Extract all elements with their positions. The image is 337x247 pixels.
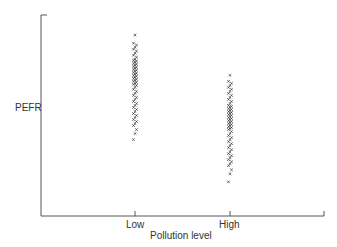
data-point-x-marker xyxy=(230,168,233,171)
x-axis xyxy=(41,211,324,216)
data-point-x-marker xyxy=(134,34,137,37)
data-point-x-marker xyxy=(227,98,230,101)
data-point-x-marker xyxy=(132,118,135,121)
data-point-x-marker xyxy=(135,128,138,131)
series-high-points xyxy=(227,74,233,183)
x-category-high: High xyxy=(219,219,240,230)
data-point-x-marker xyxy=(230,88,233,91)
y-axis-label: PEFR xyxy=(15,102,42,113)
data-point-x-marker xyxy=(132,124,135,127)
x-category-low: Low xyxy=(126,219,144,230)
data-point-x-marker xyxy=(229,74,232,77)
data-point-x-marker xyxy=(227,181,230,184)
data-point-x-marker xyxy=(229,96,232,99)
strip-plot xyxy=(0,0,337,247)
data-point-x-marker xyxy=(132,42,135,45)
series-low-points xyxy=(132,34,138,141)
data-point-x-marker xyxy=(229,172,232,175)
data-point-x-marker xyxy=(135,96,138,99)
data-point-x-marker xyxy=(227,80,230,83)
data-point-x-marker xyxy=(135,102,138,105)
data-point-x-marker xyxy=(134,132,137,135)
data-point-x-marker xyxy=(134,110,137,113)
data-point-x-marker xyxy=(230,82,233,85)
data-point-x-marker xyxy=(132,138,135,141)
data-point-x-marker xyxy=(230,94,233,97)
data-point-x-marker xyxy=(135,108,138,111)
data-point-x-marker xyxy=(134,104,137,107)
data-point-x-marker xyxy=(132,112,135,115)
x-axis-label: Pollution level xyxy=(150,230,212,241)
y-axis xyxy=(41,15,47,216)
data-point-x-marker xyxy=(132,106,135,109)
data-point-x-marker xyxy=(227,104,230,107)
